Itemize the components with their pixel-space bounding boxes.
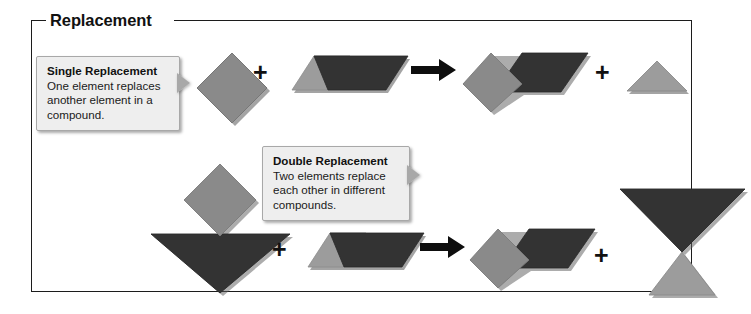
shape-triangledown-triangleup-compound (616, 184, 751, 310)
callout-body: One element replaces another element in … (47, 79, 170, 123)
shape-diamond-parallelogram-compound (467, 224, 602, 294)
plus-operator: + (272, 237, 287, 262)
callout-pointer (178, 74, 190, 92)
page-title: Replacement (50, 11, 152, 30)
callout-body: Two elements replace each other in diffe… (273, 169, 400, 213)
shape-parallelogram-compound (302, 231, 432, 281)
callout-double-replacement: Double Replacement Two elements replace … (262, 146, 410, 221)
arrow-right-icon (418, 234, 468, 264)
callout-single-replacement: Single Replacement One element replaces … (36, 56, 180, 131)
shape-parallelogram-compound (286, 54, 416, 104)
callout-pointer (408, 166, 420, 184)
plus-operator: + (595, 60, 610, 85)
arrow-right-icon (409, 57, 459, 87)
shape-triangle-element (625, 58, 693, 98)
callout-title: Single Replacement (47, 64, 170, 79)
plus-operator: + (253, 60, 268, 85)
shape-diamond-parallelogram-compound (460, 48, 595, 118)
callout-title: Double Replacement (273, 154, 400, 169)
plus-operator: + (594, 243, 609, 268)
